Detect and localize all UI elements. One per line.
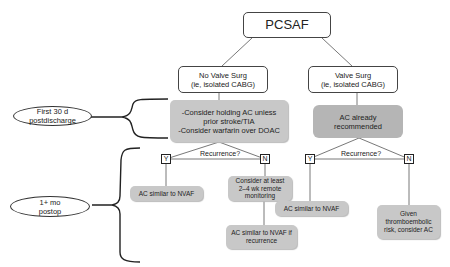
outcome-line: Consider at least — [236, 177, 285, 185]
recommendation-line: recommended — [334, 122, 382, 131]
no-valve-surgery-node: No Valve Surg (ie, isolated CABG) — [178, 66, 268, 93]
outcome-line: Given — [400, 210, 417, 218]
outcome-line: thromboembolic — [385, 218, 431, 226]
no-valve-decision-label: Recurrence? — [195, 150, 245, 157]
valve-label-line1: Valve Surg — [335, 71, 371, 80]
valve-decision-label: Recurrence? — [336, 150, 386, 157]
time-period-1-month-postop: 1+ mo postop — [10, 196, 90, 217]
valve-no-marker: N — [404, 154, 414, 164]
outcome-line: AC similar to NVAF if — [231, 229, 292, 237]
valve-yes-marker: Y — [305, 154, 315, 164]
outcome-line: risk, consider AC — [384, 226, 433, 234]
no-valve-followup-outcome: AC similar to NVAF if recurrence — [226, 225, 297, 249]
no-valve-yes-marker: Y — [161, 154, 171, 164]
outcome-line: 2–4 wk remote — [239, 185, 282, 193]
no-valve-label-line1: No Valve Surg — [199, 71, 247, 80]
time-period-line1: 1+ mo — [39, 198, 60, 207]
valve-no-outcome: Given thromboembolic risk, consider AC — [377, 205, 440, 239]
time-period-first-30-days: First 30 d postdischarge — [13, 106, 92, 126]
recommendation-line: -Consider warfarin over DOAC — [178, 126, 280, 135]
recommendation-line: -Consider holding AC unless — [182, 108, 277, 117]
valve-label-line2: (ie, isolated CABG) — [321, 80, 385, 89]
time-period-line2: postop — [39, 207, 62, 216]
recommendation-line: prior stroke/TIA — [203, 117, 254, 126]
time-period-line1: First 30 d — [37, 107, 68, 116]
outcome-line: recurrence — [246, 237, 277, 245]
no-valve-no-marker: N — [260, 154, 270, 164]
time-period-line2: postdischarge — [29, 116, 76, 125]
valve-yes-outcome: AC similar to NVAF — [275, 201, 348, 216]
no-valve-no-outcome: Consider at least 2–4 wk remote monitori… — [228, 176, 292, 201]
no-valve-recommendation-node: -Consider holding AC unless prior stroke… — [170, 100, 288, 142]
no-valve-yes-outcome: AC similar to NVAF — [130, 186, 203, 201]
no-valve-label-line2: (ie, isolated CABG) — [191, 80, 255, 89]
outcome-line: monitoring — [245, 192, 275, 200]
valve-surgery-node: Valve Surg (ie, isolated CABG) — [308, 66, 398, 93]
recommendation-line: AC already — [339, 113, 376, 122]
root-node-pcsaf: PCSAF — [243, 12, 331, 38]
valve-recommendation-node: AC already recommended — [313, 105, 403, 138]
